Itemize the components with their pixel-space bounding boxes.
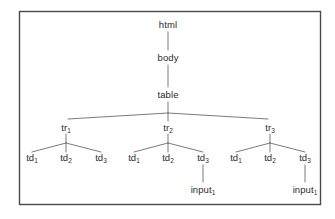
node-td-1-2-sub: 2 [68,157,72,164]
node-input-2-sub: 1 [212,189,216,196]
node-td-2-2-sub: 2 [170,157,174,164]
node-td-2-1-sub: 1 [136,157,140,164]
node-tr-3: tr3 [265,123,275,133]
tr2-to-td23 [168,143,203,152]
node-input-3-sub: 1 [314,189,318,196]
node-td-3-2-text: td [264,152,272,163]
node-table-text: table [157,89,178,100]
node-tr-3-sub: 3 [271,127,275,134]
node-tr-2-sub: 2 [169,127,173,134]
node-td-3-3: td3 [299,153,311,163]
node-body: body [157,53,178,63]
table-to-tr3 [168,113,268,119]
node-html: html [159,20,177,30]
node-td-1-3: td3 [95,153,107,163]
node-td-1-2: td2 [60,153,72,163]
tr2-to-td21 [134,143,168,152]
node-input-2: input1 [191,185,216,195]
node-tr-2: tr2 [163,123,173,133]
node-html-text: html [159,19,177,30]
tr1-to-td13 [66,143,101,152]
node-td-3-2: td2 [264,153,276,163]
node-td-2-3-sub: 3 [205,157,209,164]
node-td-3-2-sub: 2 [272,157,276,164]
node-td-2-3-text: td [197,152,205,163]
tree-edges-canvas [0,0,335,219]
dom-tree-figure: html body table tr1 tr2 tr3 td1 td2 td3 … [0,0,335,219]
node-td-1-3-sub: 3 [103,157,107,164]
node-input-3-text: input [293,184,314,195]
node-td-2-2: td2 [162,153,174,163]
tr3-to-td31 [236,143,270,152]
node-tr-1: tr1 [61,123,71,133]
node-td-3-1: td1 [230,153,242,163]
table-to-tr1 [68,113,168,119]
node-td-3-1-sub: 1 [238,157,242,164]
node-td-2-1: td1 [128,153,140,163]
node-td-1-1-text: td [26,152,34,163]
node-td-1-2-text: td [60,152,68,163]
tr1-to-td11 [32,143,66,152]
node-td-1-3-text: td [95,152,103,163]
figure-border [20,12,321,205]
node-td-2-1-text: td [128,152,136,163]
node-td-1-1: td1 [26,153,38,163]
node-td-2-3: td3 [197,153,209,163]
node-input-3: input1 [293,185,318,195]
node-tr-1-sub: 1 [67,127,71,134]
tr3-to-td33 [270,143,305,152]
node-table: table [157,90,178,100]
node-td-3-1-text: td [230,152,238,163]
node-td-2-2-text: td [162,152,170,163]
node-td-1-1-sub: 1 [34,157,38,164]
node-td-3-3-sub: 3 [307,157,311,164]
node-td-3-3-text: td [299,152,307,163]
node-body-text: body [157,52,178,63]
node-input-2-text: input [191,184,212,195]
